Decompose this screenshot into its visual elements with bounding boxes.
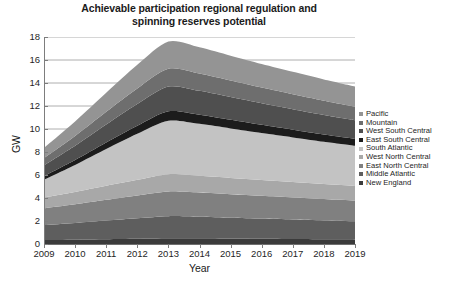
x-tick-label: 2010 (58, 248, 92, 259)
plot-area (44, 37, 355, 244)
x-tick-mark (44, 244, 45, 248)
legend-item-new-england[interactable]: New England (359, 179, 454, 188)
legend-swatch-icon (359, 181, 363, 185)
y-tick-label: 14 (16, 78, 40, 87)
y-tick-mark (44, 221, 48, 222)
x-tick-mark (324, 244, 325, 248)
chart-legend: PacificMountainWest South CentralEast So… (359, 110, 454, 187)
area-layers (44, 41, 355, 244)
y-tick-label: 2 (16, 216, 40, 225)
x-tick-label: 2014 (183, 248, 217, 259)
legend-swatch-icon (359, 172, 363, 176)
y-tick-mark (44, 129, 48, 130)
y-tick-label: 4 (16, 193, 40, 202)
legend-swatch-icon (359, 164, 363, 168)
x-tick-mark (293, 244, 294, 248)
x-tick-mark (106, 244, 107, 248)
y-tick-text: 6 (20, 170, 40, 179)
legend-swatch-icon (359, 129, 363, 133)
y-tick-text: 4 (20, 193, 40, 202)
x-tick-mark (231, 244, 232, 248)
y-tick-mark (44, 106, 48, 107)
x-tick-mark (262, 244, 263, 248)
x-tick-mark (168, 244, 169, 248)
x-axis-title: Year (44, 262, 355, 274)
chart-title: Achievable participation regional regula… (34, 2, 364, 28)
y-tick-mark (44, 60, 48, 61)
x-tick-mark (200, 244, 201, 248)
y-tick-label: 12 (16, 101, 40, 110)
x-tick-label: 2016 (245, 248, 279, 259)
y-tick-text: 12 (20, 101, 40, 110)
y-tick-mark (44, 175, 48, 176)
y-tick-text: 8 (20, 147, 40, 156)
x-tick-label: 2011 (89, 248, 123, 259)
y-tick-text: 16 (20, 55, 40, 64)
y-tick-text: 2 (20, 216, 40, 225)
x-tick-label: 2009 (27, 248, 61, 259)
y-tick-label: 0 (16, 239, 40, 248)
y-tick-label: 6 (16, 170, 40, 179)
stacked-area-chart: Achievable participation regional regula… (0, 0, 454, 285)
legend-swatch-icon (359, 147, 363, 151)
y-tick-mark (44, 37, 48, 38)
legend-swatch-icon (359, 155, 363, 159)
legend-label: New England (366, 179, 411, 188)
x-tick-label: 2012 (120, 248, 154, 259)
y-axis-line (44, 37, 45, 245)
y-tick-label: 18 (16, 32, 40, 41)
legend-swatch-icon (359, 112, 363, 116)
y-tick-text: 0 (20, 239, 40, 248)
chart-title-line-1: Achievable participation regional regula… (34, 2, 364, 15)
x-tick-mark (355, 244, 356, 248)
x-tick-mark (75, 244, 76, 248)
x-tick-label: 2018 (307, 248, 341, 259)
y-tick-mark (44, 152, 48, 153)
x-tick-label: 2017 (276, 248, 310, 259)
x-tick-mark (137, 244, 138, 248)
y-tick-mark (44, 198, 48, 199)
y-tick-text: 18 (20, 32, 40, 41)
x-tick-label: 2019 (338, 248, 372, 259)
y-tick-text: 14 (20, 78, 40, 87)
y-tick-mark (44, 83, 48, 84)
x-tick-label: 2013 (151, 248, 185, 259)
x-tick-label: 2015 (214, 248, 248, 259)
y-axis-title: GW (10, 124, 22, 164)
legend-swatch-icon (359, 121, 363, 125)
plot-svg (44, 37, 355, 244)
legend-swatch-icon (359, 138, 363, 142)
y-tick-text: 10 (20, 124, 40, 133)
y-tick-label: 16 (16, 55, 40, 64)
chart-title-line-2: spinning reserves potential (34, 15, 364, 28)
